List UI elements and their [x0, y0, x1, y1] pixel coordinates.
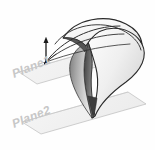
cad-figure: Plane1 Plane2 — [0, 0, 155, 150]
cad-illustration: Plane1 Plane2 — [0, 0, 155, 150]
